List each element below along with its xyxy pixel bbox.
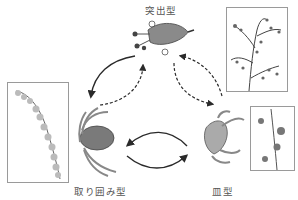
arrow-surrounding-to-protruding bbox=[100, 66, 143, 105]
diagram-canvas bbox=[0, 0, 298, 200]
arrow-surrounding-to-dish bbox=[127, 156, 186, 168]
flower-dish bbox=[204, 111, 244, 163]
flower-surrounding bbox=[79, 108, 116, 176]
arrow-protruding-to-surrounding bbox=[91, 56, 135, 96]
flower-protruding bbox=[133, 21, 195, 55]
arrow-dish-to-protruding bbox=[181, 56, 222, 96]
arrow-dish-to-surrounding bbox=[128, 132, 187, 146]
